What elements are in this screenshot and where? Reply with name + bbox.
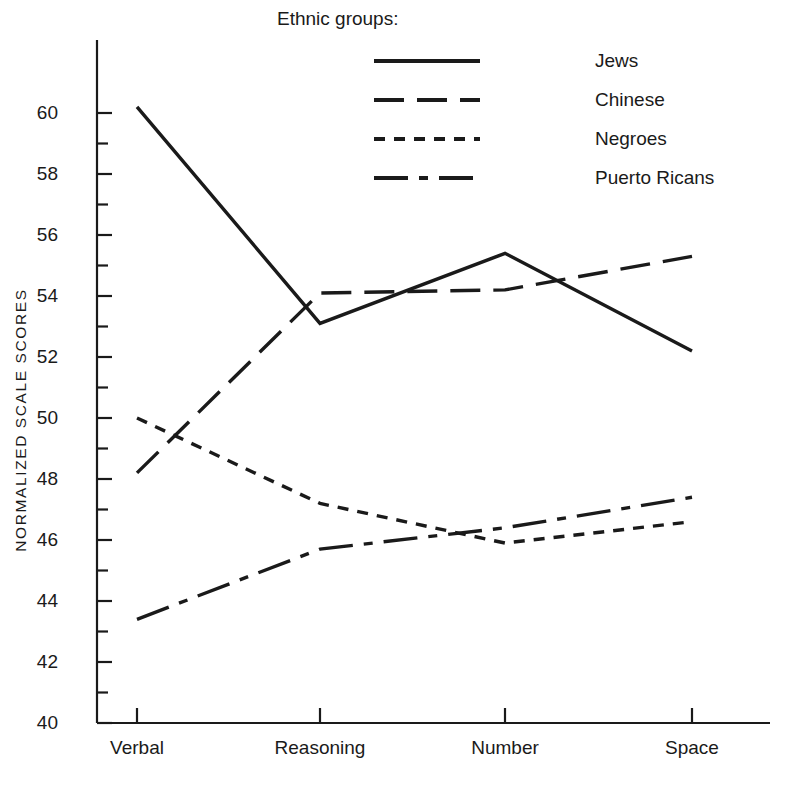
legend-line-swatch [373, 55, 481, 67]
y-tick-label: 46 [12, 530, 58, 549]
series-line-puerto-ricans [137, 497, 692, 619]
legend-label: Jews [595, 50, 638, 72]
x-tick-label: Number [471, 737, 539, 759]
y-tick-label: 40 [12, 713, 58, 732]
legend-entry-chinese: Chinese [373, 83, 693, 117]
legend-line-swatch [373, 172, 481, 184]
y-tick-label: 44 [12, 591, 58, 610]
legend-entry-puerto-ricans: Puerto Ricans [373, 161, 693, 195]
y-tick-label: 50 [12, 408, 58, 427]
legend-line-swatch [373, 94, 481, 106]
legend-title: Ethnic groups: [277, 8, 398, 30]
y-tick-label: 48 [12, 469, 58, 488]
legend-label: Chinese [595, 89, 665, 111]
x-tick-label: Verbal [110, 737, 164, 759]
x-tick-label: Reasoning [275, 737, 366, 759]
legend-entry-jews: Jews [373, 44, 693, 78]
legend-label: Negroes [595, 128, 667, 150]
y-tick-label: 60 [12, 103, 58, 122]
series-line-negroes [137, 418, 692, 543]
y-tick-label: 58 [12, 164, 58, 183]
x-axis-ticks [137, 708, 692, 723]
chart-legend: Ethnic groups: JewsChineseNegroesPuerto … [277, 8, 697, 188]
y-tick-label: 42 [12, 652, 58, 671]
chart-figure: NORMALIZED SCALE SCORES 4042444648505254… [0, 0, 787, 801]
legend-entry-negroes: Negroes [373, 122, 693, 156]
y-tick-label: 54 [12, 286, 58, 305]
legend-line-swatch [373, 133, 481, 145]
legend-label: Puerto Ricans [595, 167, 714, 189]
y-tick-label: 52 [12, 347, 58, 366]
y-tick-label: 56 [12, 225, 58, 244]
x-tick-label: Space [665, 737, 719, 759]
